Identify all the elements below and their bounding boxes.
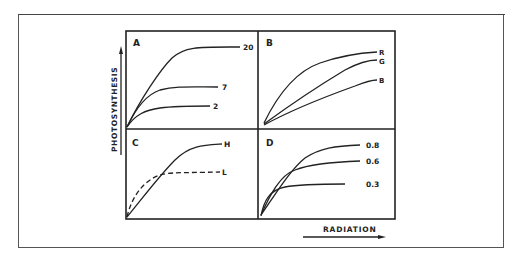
curve-label-08: 0.8 xyxy=(366,141,379,150)
panel-c: C H L xyxy=(127,138,230,217)
y-axis-arrow xyxy=(119,46,123,155)
curve-b-b xyxy=(264,80,377,125)
panel-grid xyxy=(126,31,395,219)
curve-label-l: L xyxy=(222,168,227,177)
curve-label-03: 0.3 xyxy=(366,180,379,189)
panel-a: A 20 7 2 xyxy=(127,38,253,127)
x-axis-arrow xyxy=(303,235,386,239)
y-axis-label: PHOTOSYNTHESIS xyxy=(110,67,119,152)
panel-b: B R G B xyxy=(264,38,385,125)
curve-label-h: H xyxy=(224,140,230,149)
curve-label-7: 7 xyxy=(222,83,227,92)
curve-c-h xyxy=(127,144,222,217)
curve-label-06: 0.6 xyxy=(366,157,379,166)
curve-label-b: B xyxy=(379,77,384,85)
curve-d-08 xyxy=(261,145,360,215)
photosynthesis-radiation-diagram: PHOTOSYNTHESIS RADIATION A 20 7 2 B R G … xyxy=(0,0,521,261)
curve-label-20: 20 xyxy=(243,43,253,52)
panel-d: D 0.8 0.6 0.3 xyxy=(261,138,379,216)
curve-label-g: G xyxy=(379,58,385,66)
curve-d-03 xyxy=(261,184,345,216)
curve-label-r: R xyxy=(379,49,385,57)
panel-label-b: B xyxy=(266,38,273,48)
curve-a-2 xyxy=(127,106,210,127)
panel-label-d: D xyxy=(266,138,273,148)
panel-label-c: C xyxy=(132,138,139,148)
curve-label-2: 2 xyxy=(213,102,218,111)
x-axis-label: RADIATION xyxy=(323,225,377,234)
curve-d-06 xyxy=(261,161,360,215)
curve-c-l xyxy=(127,172,220,217)
curve-b-g xyxy=(264,60,377,124)
panel-label-a: A xyxy=(133,38,140,48)
